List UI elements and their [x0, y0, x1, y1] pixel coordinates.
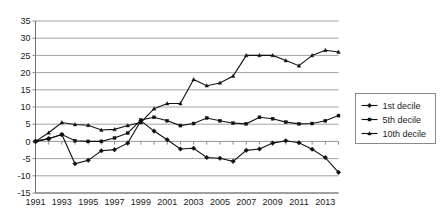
data-point	[337, 114, 340, 117]
data-point	[100, 140, 103, 143]
y-axis-tick-label: -5	[22, 154, 30, 164]
data-point	[258, 116, 261, 119]
x-axis-tick-label: 2003	[184, 197, 204, 207]
data-point	[60, 133, 63, 136]
data-point	[297, 122, 300, 125]
x-axis-tick-label: 2001	[157, 197, 177, 207]
data-point	[218, 156, 223, 161]
y-axis-tick-labels: -15-10-505101520253035	[17, 16, 30, 198]
data-point	[112, 147, 117, 152]
series-line	[36, 50, 339, 141]
series-1st-decile	[33, 118, 341, 174]
x-axis-tick-label: 1999	[131, 197, 151, 207]
x-axis-tick-label: 2009	[263, 197, 283, 207]
series-line	[36, 121, 339, 173]
data-point	[218, 119, 221, 122]
data-point	[205, 117, 208, 120]
data-point	[87, 140, 90, 143]
legend-item-label[interactable]: 5th decile	[383, 115, 422, 125]
x-axis-tick-label: 1997	[105, 197, 125, 207]
x-axis-tick-label: 2011	[289, 197, 308, 207]
data-point	[153, 116, 156, 119]
y-axis-tick-label: -10	[17, 171, 30, 181]
y-axis-tick-label: 25	[20, 51, 30, 61]
y-axis-tick-label: 30	[20, 33, 30, 43]
x-axis-tick-labels: 1991199319951997199920012003200520072009…	[25, 197, 335, 207]
chart-container: -15-10-505101520253035 19911993199519971…	[0, 0, 440, 220]
data-point	[257, 147, 262, 152]
x-axis-tick-label: 1995	[78, 197, 98, 207]
chart-legend[interactable]: 1st decile5th decile10th decile	[356, 94, 436, 144]
data-point	[113, 136, 116, 139]
line-chart: -15-10-505101520253035 19911993199519971…	[0, 0, 440, 220]
y-axis-tick-label: 0	[25, 137, 30, 147]
y-axis-tick-label: 35	[20, 16, 30, 26]
data-point	[74, 139, 77, 142]
gridlines	[36, 21, 339, 193]
series-line	[36, 116, 339, 142]
data-point	[311, 122, 314, 125]
data-point	[324, 119, 327, 122]
data-point	[192, 78, 196, 81]
legend-item-label[interactable]: 1st decile	[383, 101, 421, 111]
y-axis-tick-label: 10	[20, 102, 30, 112]
data-point	[245, 122, 248, 125]
x-axis-tick-label: 1993	[52, 197, 72, 207]
data-point	[166, 119, 169, 122]
series-10th-decile	[34, 48, 341, 143]
data-series-group	[33, 48, 341, 174]
x-axis-tick-label: 1991	[25, 197, 45, 207]
y-axis-tick-label: 20	[20, 68, 30, 78]
data-point	[284, 121, 287, 124]
data-point	[179, 124, 182, 127]
y-axis-tick-label: 5	[25, 119, 30, 129]
x-axis-tick-label: 2005	[210, 197, 230, 207]
data-point	[73, 161, 78, 166]
y-axis-tick-label: 15	[20, 85, 30, 95]
data-point	[47, 137, 50, 140]
data-point	[271, 117, 274, 120]
series-5th-decile	[34, 114, 340, 143]
legend-item-label[interactable]: 10th decile	[383, 129, 427, 139]
x-axis-tick-label: 2007	[236, 197, 256, 207]
legend-marker-square	[368, 118, 371, 121]
data-point	[192, 122, 195, 125]
data-point	[284, 138, 289, 143]
x-axis-tick-label: 2013	[315, 197, 335, 207]
data-point	[232, 122, 235, 125]
data-point	[126, 132, 129, 135]
